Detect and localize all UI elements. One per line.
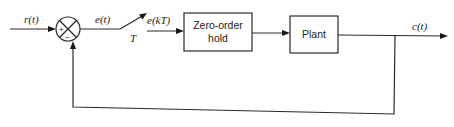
output-signal-label: c(t) (412, 20, 428, 33)
feedback-arrowhead (70, 41, 76, 49)
error-signal-label: e(t) (95, 13, 111, 26)
input-arrowhead (48, 26, 56, 32)
output-signal-line (338, 35, 444, 36)
input-signal-label: r(t) (24, 13, 39, 26)
sampler-switch (120, 15, 144, 29)
plant-input-arrowhead (282, 30, 290, 36)
zoh-label-line2: hold (208, 32, 228, 44)
output-arrowhead (440, 33, 448, 39)
sampler-arrowhead (139, 13, 147, 20)
zoh-input-arrowhead (176, 28, 184, 34)
summing-junction: + − (56, 17, 80, 42)
plus-sign: + (59, 25, 64, 34)
sample-period-label: T (130, 32, 137, 44)
block-diagram: r(t) + − e(t) T e(kT) Zero-order hold Pl… (0, 0, 454, 127)
minus-sign: − (65, 33, 70, 42)
sampled-signal-label: e(kT) (147, 14, 171, 27)
plant-label: Plant (302, 28, 326, 40)
zoh-label-line1: Zero-order (193, 19, 243, 31)
